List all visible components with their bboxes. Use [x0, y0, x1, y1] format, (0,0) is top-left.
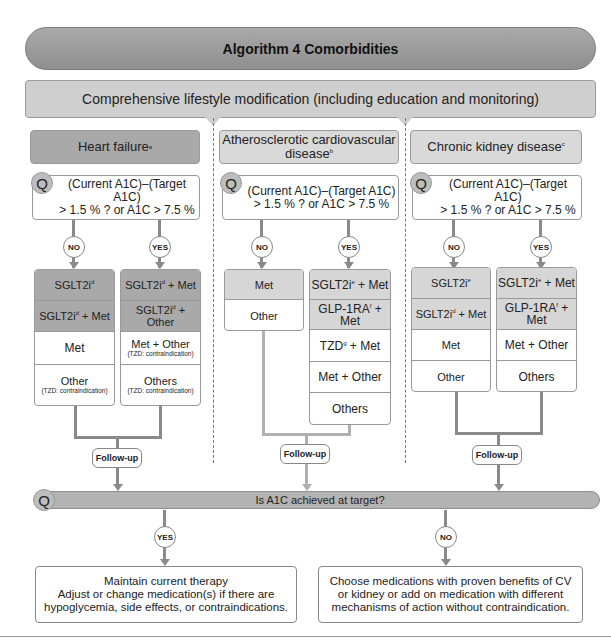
question-icon: Q — [410, 172, 432, 194]
option-cell: Other — [225, 300, 303, 331]
column-divider — [405, 118, 406, 463]
option-cell: Met + Other — [497, 330, 576, 361]
connector-line — [540, 392, 543, 434]
connector-line — [159, 406, 162, 439]
no-options-list: SGLT2ie SGLT2id + Met Met Other — [411, 267, 491, 392]
question-line: > 1.5 % ? or A1C > 7.5 % — [245, 198, 398, 211]
ascvd-header: Atherosclerotic cardiovascular diseaseb — [219, 130, 399, 164]
option-cell: Met + Other(TZD: contraindication) — [121, 332, 200, 365]
option-cell: Other(TZD: contraindication) — [35, 365, 114, 405]
yes-badge: YES — [338, 236, 360, 258]
option-cell: SGLT2ie — [412, 268, 490, 299]
option-cell: SGLT2ie + Met — [310, 270, 390, 300]
column-title: Atherosclerotic cardiovascular disease — [222, 132, 395, 161]
connector-line — [74, 406, 77, 439]
arrow-down-icon — [113, 484, 123, 491]
final-yes-badge: YES — [154, 526, 176, 548]
outcome-line: or kidney or add on medication with diff… — [338, 588, 563, 601]
no-options-list: Met Other — [224, 269, 304, 331]
arrow-down-icon — [155, 262, 165, 269]
maintain-therapy-box: Maintain current therapy Adjust or chang… — [35, 566, 297, 623]
a1c-target-question: Is A1C achieved at target? — [40, 491, 600, 509]
outcome-line: hypoglycemia, side effects, or contraind… — [44, 601, 288, 614]
option-cell: Others — [497, 361, 576, 392]
lifestyle-banner: Comprehensive lifestyle modification (in… — [25, 80, 596, 118]
option-cell: SGLT2id + Met — [412, 299, 490, 330]
follow-up-button[interactable]: Follow-up — [280, 444, 330, 464]
follow-up-button[interactable]: Follow-up — [92, 448, 142, 468]
outcome-line: Choose medications with proven benefits … — [330, 575, 572, 588]
arrow-down-icon — [69, 262, 79, 269]
outcome-line: Maintain current therapy — [104, 575, 228, 588]
yes-badge: YES — [530, 236, 552, 258]
question-line: > 1.5 % ? or A1C > 7.5 % — [55, 204, 199, 217]
arrow-down-icon — [441, 559, 451, 566]
bottom-rule — [0, 636, 611, 637]
connector-line — [262, 331, 265, 435]
yes-options-list: SGLT2ie + Met GLP-1RAf + Met TZDg + Met … — [309, 269, 391, 425]
arrow-down-icon — [257, 262, 267, 269]
choose-medications-box: Choose medications with proven benefits … — [318, 566, 583, 623]
a1c-question-box: (Current A1C)–(Target A1C) > 1.5 % ? or … — [32, 175, 200, 220]
question-line: (Current A1C)–(Target A1C) — [55, 178, 199, 204]
option-cell: SGLT2ie + Met — [497, 268, 576, 299]
column-divider — [213, 118, 214, 463]
arrow-down-icon — [160, 559, 170, 566]
no-badge: NO — [63, 236, 85, 258]
arrow-down-icon — [494, 484, 504, 491]
arrow-down-icon — [344, 262, 354, 269]
question-line: > 1.5 % ? or A1C > 7.5 % — [435, 204, 581, 217]
option-cell: Met + Other — [310, 362, 390, 393]
option-cell: Met — [35, 332, 114, 365]
connector-line — [497, 465, 500, 486]
column-title: Heart failure — [78, 140, 149, 154]
heart-failure-header: Heart failurea — [30, 130, 200, 164]
follow-up-button[interactable]: Follow-up — [472, 445, 522, 465]
yes-options-list: SGLT2ie + Met GLP-1RAf + Met Met + Other… — [496, 267, 577, 392]
footnote-marker: b — [330, 148, 333, 154]
option-cell: SGLT2id + Met — [35, 301, 114, 332]
question-line: (Current A1C)–(Target A1C) — [245, 185, 398, 198]
column-title: Chronic kidney disease — [427, 139, 561, 154]
question-icon: Q — [33, 489, 55, 511]
question-icon: Q — [31, 172, 53, 194]
option-cell: Met — [412, 330, 490, 361]
option-cell: Others — [310, 393, 390, 424]
a1c-question-box: (Current A1C)–(Target A1C) > 1.5 % ? or … — [412, 175, 582, 220]
yes-options-list: SGLT2id + Met SGLT2id + Other Met + Othe… — [120, 269, 201, 406]
option-cell: Met — [225, 270, 303, 300]
no-badge: NO — [251, 236, 273, 258]
no-options-list: SGLT2id SGLT2id + Met Met Other(TZD: con… — [34, 269, 115, 406]
connector-line — [455, 392, 458, 434]
algorithm-title: Algorithm 4 Comorbidities — [25, 27, 596, 70]
ckd-header: Chronic kidney diseasec — [410, 130, 582, 164]
question-line: (Current A1C)–(Target A1C) — [435, 178, 581, 204]
option-cell: SGLT2id — [35, 270, 114, 301]
connector-line — [305, 464, 308, 486]
option-cell: GLP-1RAf + Met — [310, 300, 390, 330]
footnote-marker: c — [562, 141, 565, 147]
a1c-question-box: (Current A1C)–(Target A1C) > 1.5 % ? or … — [222, 175, 399, 220]
yes-badge: YES — [149, 236, 171, 258]
question-icon: Q — [220, 172, 242, 194]
arrow-down-icon — [302, 484, 312, 491]
option-cell: TZDg + Met — [310, 330, 390, 362]
connector-line — [497, 432, 500, 446]
option-cell: Other — [412, 361, 490, 392]
final-no-badge: NO — [435, 526, 457, 548]
option-cell: SGLT2id + Met — [121, 270, 200, 301]
option-cell: SGLT2id + Other — [121, 301, 200, 332]
outcome-line: mechanisms of action without contraindic… — [332, 601, 570, 614]
no-badge: NO — [443, 236, 465, 258]
option-cell: GLP-1RAf + Met — [497, 299, 576, 330]
option-cell: Others(TZD: contraindication) — [121, 365, 200, 405]
outcome-line: Adjust or change medication(s) if there … — [58, 588, 275, 601]
